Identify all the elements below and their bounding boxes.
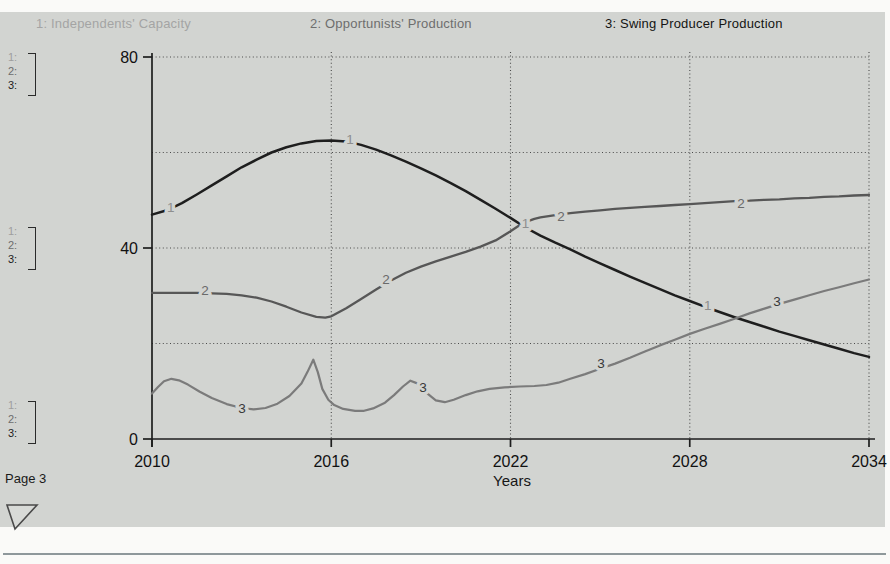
chart-plot: 0408020102016202220282034111122223333 xyxy=(0,0,890,564)
curve-label-2: 2 xyxy=(382,272,390,287)
x-axis-title: Years xyxy=(476,472,548,489)
stella-graph-page: 1: Independents' Capacity 2: Opportunist… xyxy=(0,0,890,564)
x-tick-label: 2016 xyxy=(313,453,349,470)
curve-label-2: 2 xyxy=(737,196,745,211)
curve-label-1: 1 xyxy=(167,200,175,215)
curve-label-3: 3 xyxy=(597,356,605,371)
y-tick-label: 80 xyxy=(120,49,138,66)
x-tick-label: 2010 xyxy=(134,453,170,470)
y-tick-label: 0 xyxy=(129,431,138,448)
curve-label-1: 1 xyxy=(346,132,354,147)
y-tick-label: 40 xyxy=(120,240,138,257)
curve-label-1: 1 xyxy=(522,216,530,231)
series-line-1 xyxy=(152,141,869,357)
x-tick-label: 2022 xyxy=(493,453,529,470)
bottom-rule xyxy=(3,553,886,555)
curve-label-2: 2 xyxy=(201,283,209,298)
curve-label-3: 3 xyxy=(238,401,246,416)
curve-label-1: 1 xyxy=(704,298,712,313)
x-tick-label: 2028 xyxy=(672,453,708,470)
curve-label-2: 2 xyxy=(557,209,565,224)
page-number: Page 3 xyxy=(5,471,46,486)
curve-label-3: 3 xyxy=(773,294,781,309)
page-corner-icon[interactable] xyxy=(7,505,37,529)
curve-label-3: 3 xyxy=(419,380,427,395)
x-tick-label: 2034 xyxy=(851,453,887,470)
series-line-2 xyxy=(152,195,869,318)
